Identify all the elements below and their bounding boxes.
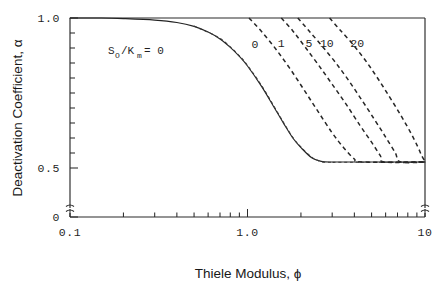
parameter-label-S: S	[108, 45, 115, 57]
chart-figure: 0.11.010 00.51.0 0151020 S O /K m = 0 Th…	[0, 0, 440, 298]
parameter-annotation: S O /K m = 0	[108, 45, 164, 60]
y-axis-tick-labels: 00.51.0	[37, 12, 60, 224]
parameter-label-sub-o: O	[115, 51, 120, 60]
x-axis-title: Thiele Modulus, ϕ	[195, 266, 302, 281]
parameter-label-slash-K: /K	[121, 45, 135, 57]
curve-label: 0	[251, 38, 258, 51]
x-axis-tick-labels: 0.11.010	[59, 226, 433, 239]
y-tick-label: 0	[52, 211, 60, 224]
x-tick-label: 10	[417, 226, 432, 239]
y-tick-label: 1.0	[37, 12, 60, 25]
data-curves	[70, 18, 425, 163]
x-axis-ticks	[70, 209, 425, 217]
y-axis-ticks	[70, 18, 78, 217]
y-axis-title: Deactivation Coefficient, α	[10, 39, 25, 196]
curve-label: 20	[350, 37, 364, 50]
x-tick-label: 1.0	[236, 226, 259, 239]
curve-label: 5	[306, 37, 313, 50]
parameter-label-sub-m: m	[137, 51, 142, 60]
chart-svg: 0.11.010 00.51.0 0151020 S O /K m = 0 Th…	[0, 0, 440, 298]
curve-so-km-20	[330, 18, 425, 161]
x-tick-label: 0.1	[59, 226, 82, 239]
curve-label: 10	[320, 37, 334, 50]
y-tick-label: 0.5	[37, 162, 60, 175]
curve-label: 1	[278, 37, 285, 50]
parameter-label-equals: = 0	[144, 45, 164, 57]
curve-labels: 0151020	[251, 37, 364, 52]
curve-solid-reference-curve	[70, 18, 425, 162]
